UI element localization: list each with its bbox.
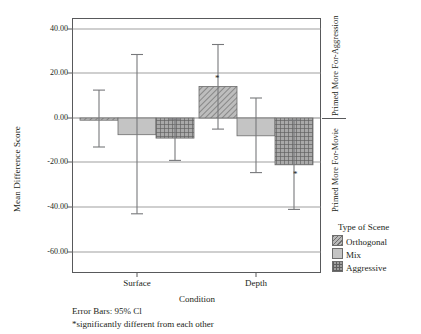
significance-marker-depth-aggressive: * <box>293 170 298 179</box>
legend-item-mix[interactable]: Mix <box>332 248 361 261</box>
x-tick-label-depth: Depth <box>226 278 286 288</box>
legend-label-mix: Mix <box>346 250 361 260</box>
legend-swatch-orthogonal-icon <box>332 235 343 246</box>
legend-label-orthogonal: Orthogonal <box>346 237 387 247</box>
right-axis-divider <box>322 118 346 119</box>
legend-label-aggressive: Aggressive <box>346 263 387 273</box>
legend-title: Type of Scene <box>338 222 389 232</box>
x-tick-label-surface: Surface <box>102 278 172 288</box>
right-axis-label-aggression: Primed More For-Aggression <box>330 6 340 116</box>
right-axis-label-movie: Primed More For-Movie <box>330 112 340 212</box>
x-tick-marks <box>137 273 256 278</box>
footnote-error-bars: Error Bars: 95% Cl <box>72 306 142 316</box>
significance-marker-depth-orthogonal: * <box>215 74 220 83</box>
chart-container: Mean Difference Score 40.00 20.00 0.00 -… <box>0 0 421 334</box>
legend-swatch-mix-icon <box>332 248 343 259</box>
legend-swatch-aggressive-icon <box>332 261 343 272</box>
x-axis-title: Condition <box>137 294 257 304</box>
footnote-significance: *significantly different from each other <box>72 319 214 329</box>
legend-item-aggressive[interactable]: Aggressive <box>332 261 387 274</box>
legend-item-orthogonal[interactable]: Orthogonal <box>332 235 387 248</box>
plot-area <box>0 0 421 334</box>
